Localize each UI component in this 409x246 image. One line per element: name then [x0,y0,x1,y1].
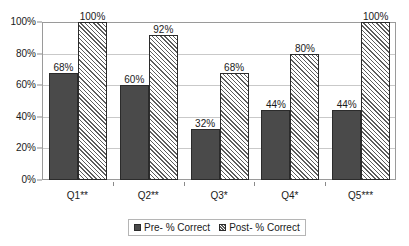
bar-value-label: 80% [295,43,315,54]
x-tick-label: Q1** [67,190,88,201]
legend-swatch-icon [219,224,226,231]
bar-pre: 44% [332,110,361,180]
y-tick-label: 60% [16,80,36,90]
y-tick-label: 80% [16,49,36,59]
bar-post: 68% [220,73,249,180]
x-tick-mark [325,182,326,186]
x-tick-label: Q4* [281,190,298,201]
x-tick-mark [254,182,255,186]
bar-chart: 0%20%40%60%80%100% 68%100%60%92%32%68%44… [0,0,409,246]
x-tick-mark [184,182,185,186]
legend-label: Pre- % Correct [144,222,210,233]
bar-post: 80% [290,54,319,180]
x-tick-label: Q2** [138,190,159,201]
x-axis: Q1**Q2**Q3*Q4*Q5*** [42,182,396,202]
bar-value-label: 44% [337,99,357,110]
bar-group: 44%80% [254,22,325,180]
bar-group: 32%68% [184,22,255,180]
bar-value-label: 68% [224,62,244,73]
y-tick-label: 100% [10,17,36,27]
y-axis: 0%20%40%60%80%100% [0,22,36,180]
y-tick-label: 0% [22,175,36,185]
bar-pre: 60% [120,85,149,180]
bar-value-label: 100% [363,11,389,22]
x-tick-label: Q5*** [348,190,373,201]
bar-group: 68%100% [42,22,113,180]
legend-label: Post- % Correct [229,222,300,233]
bars-layer: 68%100%60%92%32%68%44%80%44%100% [42,22,396,180]
legend-swatch-icon [134,224,141,231]
bar-value-label: 68% [53,62,73,73]
y-tick-label: 20% [16,143,36,153]
legend: Pre- % CorrectPost- % Correct [128,219,306,236]
bar-post: 100% [361,22,390,180]
bar-post: 92% [149,35,178,180]
legend-item[interactable]: Post- % Correct [219,222,300,233]
x-tick-mark [113,182,114,186]
bar-post: 100% [78,22,107,180]
legend-item[interactable]: Pre- % Correct [134,222,210,233]
bar-group: 44%100% [325,22,396,180]
bar-value-label: 92% [153,24,173,35]
x-tick-label: Q3* [210,190,227,201]
bar-value-label: 100% [80,11,106,22]
y-tick-label: 40% [16,112,36,122]
bar-value-label: 44% [266,99,286,110]
bar-pre: 44% [261,110,290,180]
bar-pre: 68% [49,73,78,180]
bar-group: 60%92% [113,22,184,180]
bar-pre: 32% [191,129,220,180]
bar-value-label: 32% [195,118,215,129]
bar-value-label: 60% [124,74,144,85]
